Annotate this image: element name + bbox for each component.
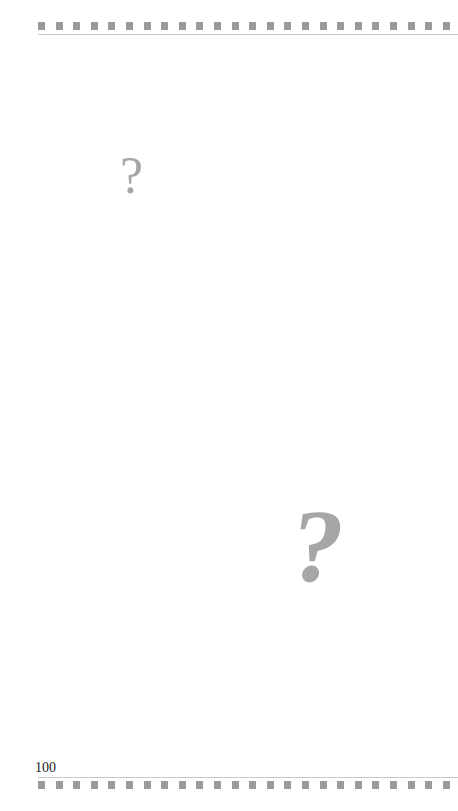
border-square [196, 781, 203, 789]
border-square [443, 781, 450, 789]
border-square [355, 22, 362, 30]
question-mark-small-icon: ? [120, 150, 143, 202]
bottom-rule [38, 777, 458, 778]
border-square [284, 22, 291, 30]
page-number: 100 [35, 760, 56, 776]
border-square [73, 781, 80, 789]
border-square [408, 22, 415, 30]
border-square [249, 22, 256, 30]
border-square [372, 22, 379, 30]
border-square [302, 22, 309, 30]
border-square [179, 781, 186, 789]
border-square [91, 22, 98, 30]
border-square [372, 781, 379, 789]
top-rule [38, 34, 458, 35]
border-square [355, 781, 362, 789]
border-square [144, 781, 151, 789]
border-square [179, 22, 186, 30]
border-square [73, 22, 80, 30]
border-square [302, 781, 309, 789]
border-square [337, 781, 344, 789]
border-square [232, 22, 239, 30]
border-square [144, 22, 151, 30]
border-square [267, 781, 274, 789]
border-square [126, 781, 133, 789]
border-square [408, 781, 415, 789]
border-square [56, 781, 63, 789]
border-square [232, 781, 239, 789]
border-square [390, 781, 397, 789]
bottom-square-border [38, 781, 458, 791]
border-square [425, 22, 432, 30]
border-square [214, 22, 221, 30]
border-square [284, 781, 291, 789]
top-square-border [38, 22, 458, 32]
border-square [108, 22, 115, 30]
border-square [214, 781, 221, 789]
border-square [161, 22, 168, 30]
border-square [249, 781, 256, 789]
border-square [91, 781, 98, 789]
border-square [320, 22, 327, 30]
border-square [390, 22, 397, 30]
border-square [56, 22, 63, 30]
border-square [320, 781, 327, 789]
border-square [425, 781, 432, 789]
question-mark-large-icon: ? [285, 494, 352, 598]
border-square [161, 781, 168, 789]
border-square [443, 22, 450, 30]
border-square [38, 22, 45, 30]
border-square [337, 22, 344, 30]
border-square [126, 22, 133, 30]
border-square [38, 781, 45, 789]
border-square [267, 22, 274, 30]
border-square [196, 22, 203, 30]
border-square [108, 781, 115, 789]
